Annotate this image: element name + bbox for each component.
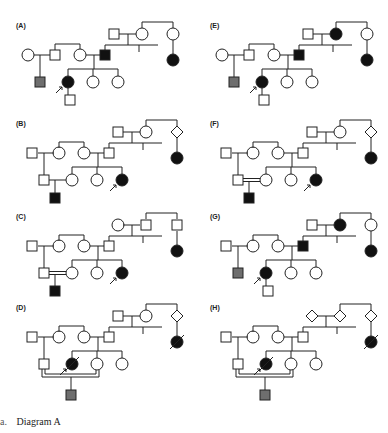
- parent-2-female-symbol: [247, 147, 259, 159]
- cousin-female-symbol: [167, 54, 179, 66]
- pedigree-panel-d: (D): [16, 304, 184, 400]
- panel-label: (B): [16, 120, 26, 128]
- parent-1-male-symbol: [221, 241, 231, 251]
- grandparent-1-female-symbol: [112, 219, 124, 231]
- child-1-male-symbol: [233, 175, 243, 185]
- panel-label: (H): [210, 304, 220, 312]
- child-3-female-symbol: [91, 358, 103, 370]
- grandchild-male-symbol: [260, 390, 270, 400]
- proband-arrow-icon: [110, 185, 116, 191]
- grandmother-female-symbol: [140, 310, 152, 322]
- panel-label: (C): [16, 213, 26, 221]
- cousin-female-symbol: [365, 152, 377, 164]
- grandmother-female-symbol: [140, 126, 152, 138]
- child-1-male-symbol: [35, 77, 45, 87]
- grandfather-male-symbol: [307, 127, 317, 137]
- proband-arrow-icon: [254, 278, 260, 284]
- child-4-female-symbol: [306, 76, 318, 88]
- parent-1-male-symbol: [27, 241, 37, 251]
- child-4-female-symbol: [310, 358, 322, 370]
- great-aunt-unknown-sex-symbol: [365, 126, 377, 138]
- pedigree-panel-h: (H): [210, 304, 378, 400]
- parent-3-female-symbol: [78, 331, 90, 343]
- parent-3-female-symbol: [272, 240, 284, 252]
- child-1-male-symbol: [229, 77, 239, 87]
- child-4-female-symbol: [310, 267, 322, 279]
- grandmother-female-symbol: [330, 28, 342, 40]
- cousin-female-symbol: [365, 245, 377, 257]
- parent-4-male-symbol: [104, 148, 114, 158]
- grandfather-male-symbol: [307, 220, 317, 230]
- cousin-female-symbol: [361, 54, 373, 66]
- parent-2-female-symbol: [53, 147, 65, 159]
- panel-label: (E): [210, 22, 219, 30]
- child-4-female-symbol: [116, 174, 128, 186]
- parent-4-male-symbol: [298, 332, 308, 342]
- parent-1-male-symbol: [27, 332, 37, 342]
- panel-label: (A): [16, 22, 26, 30]
- parent-1-male-symbol: [27, 148, 37, 158]
- grandfather-male-symbol: [109, 29, 119, 39]
- parent-1-male-symbol: [221, 332, 231, 342]
- child-3-female-symbol: [91, 174, 103, 186]
- great-aunt-female-symbol: [365, 219, 377, 231]
- grandchild-male-symbol: [263, 286, 273, 296]
- option-text: Diagram A: [17, 416, 61, 427]
- answer-option[interactable]: a. Diagram A: [0, 416, 61, 427]
- proband-arrow-icon: [250, 87, 256, 93]
- child-2-female-symbol: [62, 76, 74, 88]
- pedigree-panel-e: (E): [210, 22, 373, 105]
- grandmother-female-symbol: [334, 219, 346, 231]
- grandparent-2-male-symbol: [141, 220, 151, 230]
- grandparent-1-unknown-sex-symbol: [306, 310, 318, 322]
- panel-label: (D): [16, 304, 26, 312]
- parent-4-male-symbol: [298, 148, 308, 158]
- grandmother-female-symbol: [334, 126, 346, 138]
- child-3-female-symbol: [285, 267, 297, 279]
- grandchild-male-symbol: [50, 286, 60, 296]
- child-4-female-symbol: [112, 76, 124, 88]
- child-3-female-symbol: [87, 76, 99, 88]
- child-4-female-symbol: [116, 267, 128, 279]
- great-aunt-unknown-sex-symbol: [365, 310, 377, 322]
- parent-1-female-symbol: [22, 49, 34, 61]
- parent-3-female-symbol: [268, 49, 280, 61]
- pedigree-panel-c: (C): [16, 213, 183, 296]
- parent-4-male-symbol: [294, 50, 304, 60]
- parent-3-female-symbol: [78, 147, 90, 159]
- cousin-female-symbol: [171, 152, 183, 164]
- grandfather-male-symbol: [113, 127, 123, 137]
- grandfather-male-symbol: [113, 311, 123, 321]
- child-1-male-symbol: [39, 175, 49, 185]
- parent-1-male-symbol: [221, 148, 231, 158]
- grandchild-male-symbol: [65, 95, 75, 105]
- panel-label: (G): [210, 213, 220, 221]
- child-2-female-symbol: [66, 174, 78, 186]
- child-3-female-symbol: [285, 174, 297, 186]
- child-3-female-symbol: [285, 358, 297, 370]
- pedigree-panel-g: (G): [210, 213, 377, 296]
- parent-2-male-symbol: [50, 50, 60, 60]
- parent-2-female-symbol: [247, 331, 259, 343]
- parent-4-male-symbol: [104, 241, 114, 251]
- option-letter: a.: [0, 416, 14, 427]
- parent-3-female-symbol: [272, 147, 284, 159]
- parent-2-female-symbol: [247, 240, 259, 252]
- cousin-female-symbol: [171, 245, 183, 257]
- child-4-female-symbol: [310, 174, 322, 186]
- parent-1-female-symbol: [216, 49, 228, 61]
- great-aunt-female-symbol: [167, 28, 179, 40]
- parent-4-male-symbol: [104, 332, 114, 342]
- panel-label: (F): [210, 120, 219, 128]
- proband-arrow-icon: [110, 278, 116, 284]
- child-1-male-symbol: [233, 359, 243, 369]
- child-3-female-symbol: [281, 76, 293, 88]
- parent-3-female-symbol: [78, 240, 90, 252]
- proband-arrow-icon: [56, 87, 62, 93]
- parent-2-male-symbol: [244, 50, 254, 60]
- child-2-female-symbol: [256, 76, 268, 88]
- child-3-female-symbol: [91, 267, 103, 279]
- pedigree-panel-b: (B): [16, 120, 183, 203]
- pedigree-panel-a: (A): [16, 22, 179, 105]
- child-1-male-symbol: [39, 359, 49, 369]
